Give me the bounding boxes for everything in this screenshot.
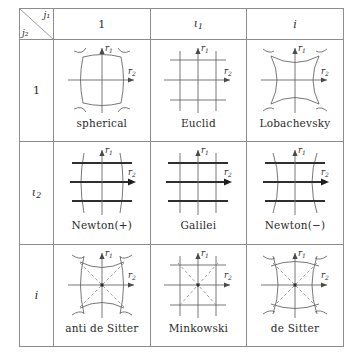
cell-de-sitter: r1 r2 de Sitter [247, 244, 344, 346]
row-header-iota2: ι2 [20, 142, 54, 244]
table-header-row: j₁ j₂ 1 ι1 i [20, 9, 344, 40]
axis-arrow-horizontal-icon [128, 77, 134, 82]
axis-arrow-horizontal-icon [321, 77, 327, 82]
diagram-euclid: r1 r2 [152, 43, 244, 117]
axis-arrow-horizontal-icon [128, 282, 134, 287]
cell-spherical: r1 r2 spherical [54, 40, 151, 142]
axis-arrow-vertical-icon [292, 150, 297, 156]
cell-newton-plus: r1 r2 Newton(+) [54, 142, 151, 244]
cell-caption: Lobachevsky [260, 117, 331, 129]
column-header-iota1: ι1 [150, 9, 247, 40]
axis-label-r2: r2 [224, 66, 232, 77]
diagram-de-sitter: r1 r2 [249, 248, 341, 322]
origin-dot-icon [197, 283, 200, 286]
axis-arrow-horizontal-icon [224, 77, 230, 82]
cell-minkowski: r1 r2 Minkowski [150, 244, 247, 346]
origin-dot-icon [100, 283, 103, 286]
geometry-table: j₁ j₂ 1 ι1 i 1 [19, 8, 344, 347]
axis-label-r1: r1 [105, 43, 113, 54]
axis-label-r2: r2 [128, 66, 136, 77]
cell-caption: anti de Sitter [65, 322, 138, 334]
cell-caption: de Sitter [271, 322, 319, 334]
corner-label-j2: j₂ [22, 28, 28, 38]
axis-label-r1: r1 [201, 145, 209, 156]
axis-arrow-vertical-icon [99, 48, 104, 54]
table-row-iota2: ι2 [20, 142, 344, 244]
axis-label-r1: r1 [298, 145, 306, 156]
axis-label-r1: r1 [105, 145, 113, 156]
axis-arrow-vertical-icon [196, 253, 201, 259]
column-header-iota1-sub: 1 [198, 22, 203, 31]
axis-arrow-vertical-icon [292, 48, 297, 54]
axis-arrow-horizontal-icon [321, 179, 329, 186]
table-row-1: 1 [20, 40, 344, 142]
corner-label-j1: j₁ [44, 10, 50, 20]
table-row-i: i [20, 244, 344, 346]
diagram-galilei: r1 r2 [152, 145, 244, 219]
axis-label-r2: r2 [128, 167, 136, 178]
axis-arrow-horizontal-icon [321, 282, 327, 287]
axis-arrow-vertical-icon [196, 48, 201, 54]
axis-label-r2: r2 [321, 270, 329, 281]
cell-caption: Minkowski [169, 322, 228, 334]
column-header-1: 1 [54, 9, 151, 40]
axis-arrow-horizontal-icon [224, 179, 232, 186]
diagram-anti-de-sitter: r1 r2 [56, 248, 148, 322]
axis-label-r2: r2 [224, 167, 232, 178]
row-header-1: 1 [20, 40, 54, 142]
axis-label-r1: r1 [105, 248, 113, 259]
axis-label-r1: r1 [201, 43, 209, 54]
cell-anti-de-sitter: r1 r2 anti de Sitter [54, 244, 151, 346]
axis-arrow-horizontal-icon [128, 179, 136, 186]
cell-newton-minus: r1 r2 Newton(−) [247, 142, 344, 244]
cell-caption: Newton(+) [72, 219, 132, 231]
cell-galilei: r1 r2 Galilei [150, 142, 247, 244]
cell-caption: Euclid [181, 117, 216, 129]
cell-caption: Galilei [181, 219, 217, 231]
column-header-i: i [247, 9, 344, 40]
axis-arrow-vertical-icon [292, 253, 297, 259]
axis-arrow-vertical-icon [99, 253, 104, 259]
axis-arrow-vertical-icon [99, 150, 104, 156]
diagram-newton-plus: r1 r2 [56, 145, 148, 219]
axis-label-r1: r1 [298, 248, 306, 259]
axis-label-r2: r2 [128, 270, 136, 281]
axis-label-r1: r1 [201, 248, 209, 259]
cell-lobachevsky: r1 r2 Lobachevsky [247, 40, 344, 142]
cell-caption: spherical [76, 117, 127, 129]
diagram-lobachevsky: r1 r2 [249, 43, 341, 117]
corner-header-cell: j₁ j₂ [20, 9, 54, 40]
diagram-newton-minus: r1 r2 [249, 145, 341, 219]
diagram-spherical: r1 r2 [56, 43, 148, 117]
axis-label-r2: r2 [224, 270, 232, 281]
axis-label-r1: r1 [298, 43, 306, 54]
figure-root: j₁ j₂ 1 ι1 i 1 [0, 0, 361, 364]
axis-label-r2: r2 [321, 66, 329, 77]
diagram-minkowski: r1 r2 [152, 248, 244, 322]
axis-label-r2: r2 [321, 167, 329, 178]
axis-arrow-vertical-icon [196, 150, 201, 156]
origin-dot-icon [293, 283, 296, 286]
cell-caption: Newton(−) [265, 219, 325, 231]
row-header-iota2-sub: 2 [36, 191, 41, 200]
axis-arrow-horizontal-icon [224, 282, 230, 287]
row-header-i: i [20, 244, 54, 346]
cell-euclid: r1 r2 Euclid [150, 40, 247, 142]
